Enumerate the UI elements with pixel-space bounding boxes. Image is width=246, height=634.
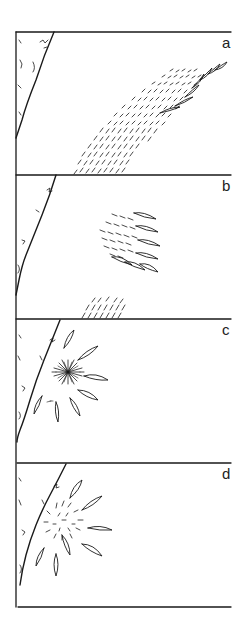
panel-d-radial-streaks (44, 501, 83, 540)
panel-d-lenses (36, 480, 112, 576)
panel-d-shoreline (19, 464, 66, 585)
panel-b-streaks (100, 214, 137, 258)
panel-b-shoreline (16, 175, 56, 295)
panel-a-streaks (74, 69, 201, 174)
figure: a b c d (0, 0, 246, 634)
panel-a-lenses (160, 62, 227, 113)
panel-label-c: c (222, 322, 230, 337)
panel-a-shoreline (16, 32, 54, 138)
panel-c-starburst (52, 360, 84, 384)
panel-label-d: d (222, 466, 230, 481)
panel-b-bottom-streaks (82, 297, 125, 318)
figure-caption-cutoff (0, 622, 246, 634)
panel-b-lenses (112, 213, 160, 272)
panel-c-shoreline (17, 320, 60, 442)
panel-label-b: b (222, 178, 230, 193)
panel-frames (16, 32, 231, 607)
panel-label-a: a (222, 35, 230, 50)
panel-c-lenses (34, 330, 108, 422)
figure-drawing (0, 0, 246, 634)
